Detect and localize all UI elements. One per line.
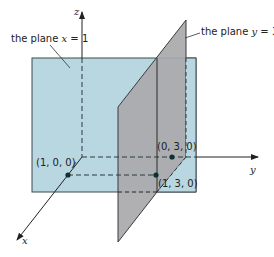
leader-plane-y — [185, 33, 200, 38]
plane-x-label: the plane x = 1 — [11, 33, 88, 44]
x-axis-label: x — [22, 235, 28, 246]
point-1-0-0 — [65, 172, 70, 177]
point-label-1-3-0: (1, 3, 0) — [158, 178, 198, 189]
planes-diagram: z y x the plane x = 1 the plane y = 3 (1… — [0, 0, 274, 257]
y-axis-label: y — [249, 164, 256, 175]
plane-y-label: the plane y = 3 — [201, 26, 274, 37]
point-label-1-0-0: (1, 0, 0) — [36, 157, 76, 168]
point-0-3-0 — [169, 154, 174, 159]
point-label-0-3-0: (0, 3, 0) — [157, 141, 197, 152]
plane-y-3 — [118, 20, 186, 242]
z-axis-label: z — [73, 6, 80, 17]
point-1-3-0 — [153, 172, 158, 177]
